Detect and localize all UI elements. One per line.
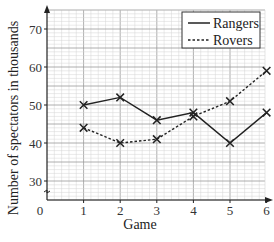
- legend: Rangers Rovers: [182, 12, 260, 48]
- x-tick-label: 3: [154, 203, 161, 218]
- y-tick-label: 30: [29, 174, 42, 189]
- y-axis-label: Number of spectators in thousands: [6, 21, 21, 215]
- x-tick-label: 2: [117, 203, 124, 218]
- x-tick-labels: 0123456: [37, 200, 271, 218]
- series-rovers: [80, 67, 271, 147]
- series-line: [84, 71, 267, 143]
- x-tick-label: 5: [227, 203, 234, 218]
- y-tick-label: 50: [29, 98, 42, 113]
- y-tick-label: 60: [29, 60, 42, 75]
- data-series: [80, 67, 271, 147]
- legend-label-rangers: Rangers: [213, 16, 259, 31]
- y-tick-labels: 3040506070: [29, 22, 47, 189]
- legend-label-rovers: Rovers: [213, 33, 253, 48]
- x-tick-label: 0: [37, 203, 44, 218]
- y-tick-label: 70: [29, 22, 42, 37]
- x-tick-label: 1: [80, 203, 87, 218]
- x-tick-label: 4: [190, 203, 197, 218]
- x-axis-label: Game: [123, 217, 156, 232]
- y-tick-label: 40: [29, 136, 42, 151]
- line-chart: 3040506070 0123456 Game Number of specta…: [0, 0, 274, 242]
- y-axis-arrow-icon: [44, 5, 50, 13]
- x-tick-label: 6: [263, 203, 270, 218]
